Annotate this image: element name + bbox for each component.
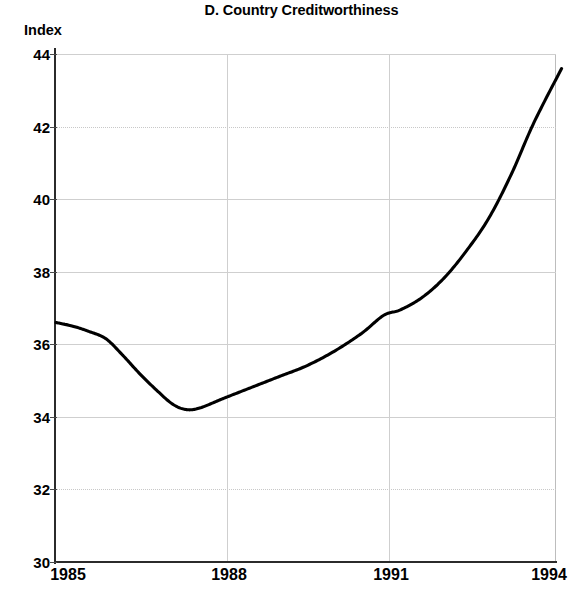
y-tick-label-32: 32: [6, 481, 50, 498]
y-tick-label-42: 42: [6, 119, 50, 136]
gridline-y-34: [56, 417, 556, 418]
y-tick-mark-38: [50, 272, 57, 273]
y-tick-label-38: 38: [6, 264, 50, 281]
plot-area: [56, 54, 556, 562]
y-tick-mark-30: [50, 562, 57, 563]
y-tick-label-34: 34: [6, 409, 50, 426]
x-tick-label-1994: 1994: [531, 566, 567, 584]
gridline-y-36: [56, 344, 556, 345]
gridline-x-1991: [389, 54, 390, 562]
x-tick-label-1991: 1991: [373, 566, 409, 584]
y-tick-label-30: 30: [6, 554, 50, 571]
y-tick-mark-44: [50, 54, 57, 55]
x-tick-label-1988: 1988: [211, 566, 247, 584]
plot-border-right: [555, 54, 556, 562]
y-tick-mark-42: [50, 127, 57, 128]
chart-figure: D. Country Creditworthiness Index 44 42 …: [0, 0, 585, 598]
y-tick-mark-36: [50, 344, 57, 345]
gridline-y-40: [56, 199, 556, 200]
y-tick-mark-32: [50, 489, 57, 490]
y-tick-label-36: 36: [6, 336, 50, 353]
gridline-y-32: [56, 489, 556, 490]
y-tick-mark-34: [50, 417, 57, 418]
y-axis-line: [54, 48, 56, 564]
x-tick-label-1985: 1985: [50, 566, 86, 584]
gridline-y-38: [56, 272, 556, 273]
gridline-y-44: [56, 54, 556, 55]
x-axis-line: [54, 561, 557, 563]
chart-title: D. Country Creditworthiness: [0, 2, 585, 18]
gridline-y-42: [56, 127, 556, 128]
y-tick-label-44: 44: [6, 46, 50, 63]
y-tick-mark-40: [50, 199, 57, 200]
gridline-x-1988: [227, 54, 228, 562]
y-tick-labels: 44 42 40 38 36 34 32 30: [0, 0, 50, 598]
y-tick-label-40: 40: [6, 191, 50, 208]
